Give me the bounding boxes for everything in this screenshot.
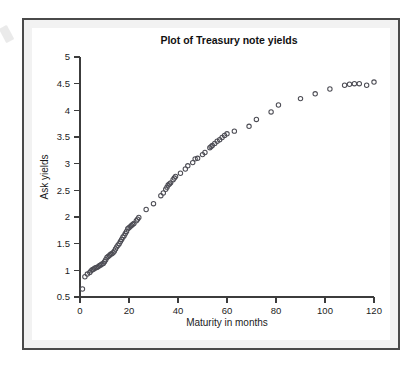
figure-inner-background: [32, 28, 390, 340]
page-canvas: Plot of Treasury note yields 0.511.522.5…: [0, 0, 418, 368]
figure-frame: [22, 18, 400, 350]
scan-artifact: [0, 25, 14, 43]
